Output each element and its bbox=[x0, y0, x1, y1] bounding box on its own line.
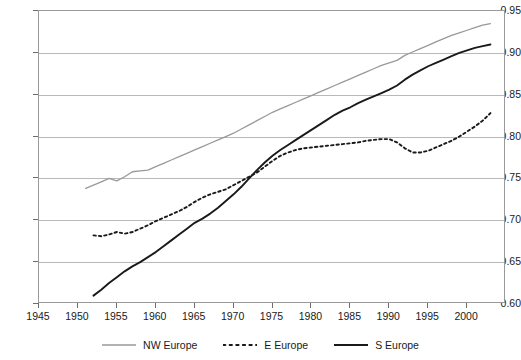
legend-item-e-europe: E Europe bbox=[223, 340, 308, 351]
series-layer bbox=[39, 11, 506, 304]
x-axis-tick-mark bbox=[233, 303, 234, 308]
x-axis-tick-label: 2000 bbox=[446, 311, 486, 322]
chart-legend: NW EuropeE EuropeS Europe bbox=[0, 336, 521, 354]
x-axis-tick-label: 1990 bbox=[368, 311, 408, 322]
series-line-s-europe bbox=[93, 44, 490, 295]
legend-swatch-solid bbox=[102, 341, 136, 349]
x-axis-tick-label: 1970 bbox=[213, 311, 253, 322]
x-axis-tick-mark bbox=[155, 303, 156, 308]
line-chart: 0.600.650.700.750.800.850.900.95 1945195… bbox=[0, 0, 521, 360]
x-axis-tick-mark bbox=[77, 303, 78, 308]
x-axis-tick-mark bbox=[388, 303, 389, 308]
legend-item-nw-europe: NW Europe bbox=[102, 340, 197, 351]
x-axis-tick-mark bbox=[272, 303, 273, 308]
x-axis-tick-label: 1980 bbox=[290, 311, 330, 322]
x-axis-tick-mark bbox=[38, 303, 39, 308]
x-axis-tick-mark bbox=[116, 303, 117, 308]
series-line-nw-europe bbox=[86, 24, 491, 189]
x-axis-tick-mark bbox=[310, 303, 311, 308]
legend-label: S Europe bbox=[375, 340, 419, 351]
x-axis-tick-label: 1985 bbox=[329, 311, 369, 322]
legend-swatch-dotted bbox=[223, 341, 257, 349]
legend-label: E Europe bbox=[264, 340, 308, 351]
x-axis-tick-mark bbox=[194, 303, 195, 308]
x-axis-tick-label: 1955 bbox=[96, 311, 136, 322]
plot-area bbox=[38, 10, 505, 303]
x-axis-tick-label: 1950 bbox=[57, 311, 97, 322]
x-axis-tick-label: 1995 bbox=[407, 311, 447, 322]
x-axis-tick-label: 1945 bbox=[18, 311, 58, 322]
x-axis-tick-label: 1965 bbox=[174, 311, 214, 322]
legend-swatch-solid bbox=[334, 341, 368, 349]
x-axis-tick-label: 1975 bbox=[252, 311, 292, 322]
legend-label: NW Europe bbox=[143, 340, 197, 351]
x-axis-tick-mark bbox=[466, 303, 467, 308]
legend-item-s-europe: S Europe bbox=[334, 340, 419, 351]
series-line-e-europe bbox=[93, 113, 490, 236]
x-axis-tick-label: 1960 bbox=[135, 311, 175, 322]
x-axis-tick-mark bbox=[427, 303, 428, 308]
x-axis-tick-mark bbox=[349, 303, 350, 308]
